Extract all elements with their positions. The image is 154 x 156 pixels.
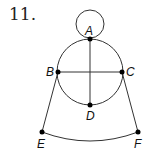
label-B: B bbox=[46, 65, 54, 79]
point-D bbox=[88, 103, 93, 108]
point-C bbox=[120, 70, 125, 75]
label-F: F bbox=[134, 137, 142, 151]
arc-EF bbox=[42, 132, 138, 141]
geometry-diagram: A B C D E F bbox=[0, 0, 154, 156]
segment-BE bbox=[42, 72, 58, 132]
point-B bbox=[56, 70, 61, 75]
label-E: E bbox=[37, 137, 46, 151]
label-D: D bbox=[86, 109, 95, 123]
segment-CF bbox=[122, 72, 138, 132]
point-F bbox=[136, 130, 141, 135]
point-E bbox=[40, 130, 45, 135]
label-C: C bbox=[126, 65, 135, 79]
label-A: A bbox=[84, 24, 93, 38]
